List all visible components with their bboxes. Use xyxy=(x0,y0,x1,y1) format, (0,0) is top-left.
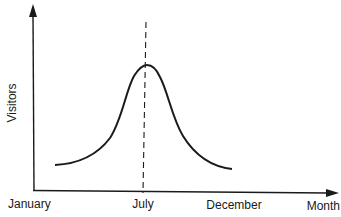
x-tick-label-july: July xyxy=(132,197,153,211)
x-axis-arrow-icon xyxy=(326,189,339,197)
x-axis-label: Month xyxy=(307,199,340,213)
y-axis xyxy=(29,4,37,191)
x-tick-label-december: December xyxy=(206,198,261,212)
peak-marker-line xyxy=(143,22,146,193)
y-axis-label: Visitors xyxy=(5,83,19,122)
visitors-by-month-chart: Visitors January July December Month xyxy=(0,0,341,217)
x-tick-label-january: January xyxy=(8,197,51,211)
x-axis xyxy=(33,189,339,197)
y-axis-arrow-icon xyxy=(29,4,37,17)
